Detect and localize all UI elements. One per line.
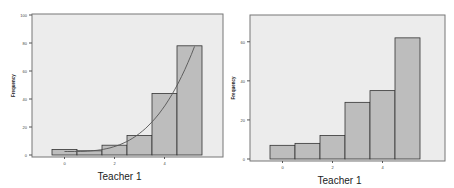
histogram-right: 0204060024Teacher 1Frequency — [227, 0, 454, 188]
x-tick-label: 2 — [113, 161, 116, 166]
y-tick-label: 20 — [241, 118, 246, 123]
histogram-bar — [320, 136, 345, 159]
x-tick-label: 0 — [63, 161, 66, 166]
histogram-bar — [127, 135, 152, 155]
x-tick-label: 2 — [331, 165, 334, 170]
y-tick-label: 60 — [23, 69, 28, 74]
x-tick-label: 4 — [163, 161, 166, 166]
y-tick-label: 40 — [23, 97, 28, 102]
y-tick-label: 0 — [25, 153, 28, 158]
histogram-bar — [345, 102, 370, 159]
y-axis-title: Frequency — [11, 74, 16, 97]
histogram-bar — [395, 38, 420, 159]
y-tick-label: 60 — [241, 40, 246, 45]
histogram-bar — [52, 149, 77, 155]
histogram-bar — [270, 145, 295, 159]
y-tick-label: 80 — [23, 41, 28, 46]
x-axis-title: Teacher 1 — [318, 175, 362, 186]
x-tick-label: 0 — [281, 165, 284, 170]
histogram-bar — [370, 91, 395, 159]
histogram-bar — [152, 93, 177, 155]
y-tick-label: 100 — [20, 13, 27, 18]
histogram-left: 020406080100024Teacher 1Frequency — [0, 0, 227, 188]
x-axis-title: Teacher 1 — [98, 171, 142, 182]
histogram-bar — [177, 46, 202, 155]
x-tick-label: 4 — [381, 165, 384, 170]
histogram-right-svg: 0204060024Teacher 1Frequency — [227, 0, 454, 188]
y-axis-title: Frequency — [231, 76, 236, 99]
y-tick-label: 40 — [241, 79, 246, 84]
histogram-left-svg: 020406080100024Teacher 1Frequency — [0, 0, 227, 188]
y-tick-label: 0 — [243, 157, 246, 162]
y-tick-label: 20 — [23, 125, 28, 130]
histogram-bar — [295, 143, 320, 159]
